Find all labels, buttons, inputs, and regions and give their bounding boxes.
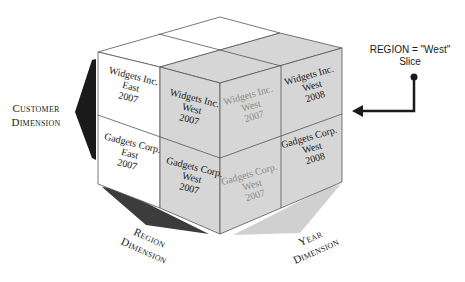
callout-arrowhead-icon <box>352 105 363 117</box>
callout-line-1: REGION = "West" <box>358 44 462 56</box>
region-west-slice-label: REGION = "West" Slice <box>358 44 462 68</box>
customer-dimension-arrow <box>75 59 96 160</box>
customer-dimension-label: Customer Dimension <box>2 101 70 129</box>
callout-line-2: Slice <box>358 56 462 68</box>
callout-line <box>360 77 414 111</box>
cube-graphic <box>0 0 465 282</box>
olap-cube-diagram: Widgets Inc. East 2007 Widgets Inc. West… <box>0 0 465 282</box>
